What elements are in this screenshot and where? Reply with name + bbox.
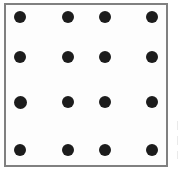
dot-r4c3 xyxy=(99,144,111,156)
dot-r3c3 xyxy=(99,96,111,108)
dot-r1c4 xyxy=(146,11,158,23)
dot-r3c2 xyxy=(62,96,74,108)
dot-r1c1 xyxy=(14,11,26,23)
artifact-mark-3 xyxy=(177,151,178,159)
figure-root xyxy=(0,0,187,175)
artifact-mark-2 xyxy=(177,136,178,145)
dot-r4c1 xyxy=(14,144,26,156)
dot-r4c2 xyxy=(62,144,74,156)
dot-r3c1 xyxy=(14,96,27,109)
dot-r1c2 xyxy=(62,11,74,23)
dot-r4c4 xyxy=(146,144,158,156)
dot-r2c1 xyxy=(14,51,26,63)
dot-r1c3 xyxy=(99,11,111,23)
artifact-mark-1 xyxy=(177,121,178,130)
dot-r2c3 xyxy=(99,51,111,63)
dot-r2c2 xyxy=(62,51,74,63)
dot-r2c4 xyxy=(146,51,158,63)
dot-r3c4 xyxy=(146,96,158,108)
dot-grid-panel xyxy=(4,3,168,167)
